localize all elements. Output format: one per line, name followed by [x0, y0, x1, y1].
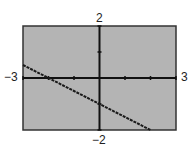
graph-plot — [0, 0, 196, 148]
